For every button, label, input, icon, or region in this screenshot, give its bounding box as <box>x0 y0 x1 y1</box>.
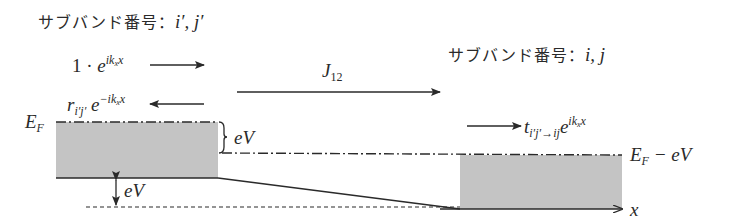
left-subband-title: サブバンド番号：i′, j′ <box>38 9 203 33</box>
right-subband-indices: i, j <box>585 44 605 65</box>
incident-wave-label: 1 · eikxx <box>72 53 123 77</box>
left-subband-title-text: サブバンド番号： <box>38 13 175 32</box>
right-subband-title-text: サブバンド番号： <box>448 46 585 65</box>
bottom-shift-label: eV <box>124 180 144 202</box>
bias-brace-icon <box>219 122 227 153</box>
left-subband-indices: i′, j′ <box>175 11 203 32</box>
right-fermi-level-line <box>222 153 622 155</box>
potential-slope-line <box>218 178 460 209</box>
x-axis-label: x <box>630 199 638 221</box>
reflected-wave-label: ri′j′ e−ikxx <box>67 92 125 119</box>
left-fermi-level-label: EF <box>25 111 44 136</box>
current-label: J12 <box>322 60 342 85</box>
transmitted-wave-label: ti′j′→ijeikxx <box>524 114 586 141</box>
right-subband-title: サブバンド番号：i, j <box>448 42 605 66</box>
bias-brace-label: eV <box>234 127 254 149</box>
right-fermi-level-label: EF − eV <box>630 144 691 169</box>
right-band-fill <box>460 155 622 209</box>
left-band-fill <box>56 122 218 178</box>
